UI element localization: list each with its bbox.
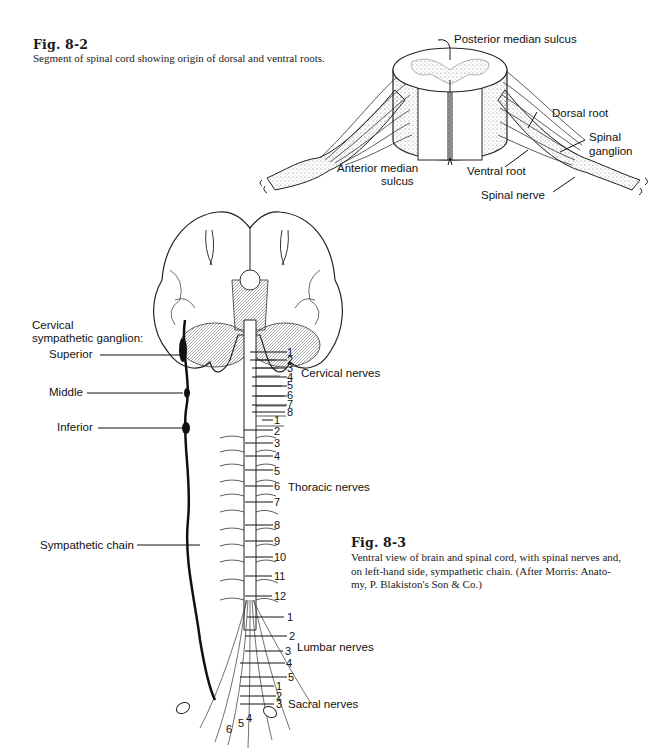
fig-8-3-caption: Ventral view of brain and spinal cord, w… [351, 551, 661, 592]
lumbar-number-2: 2 [289, 631, 295, 641]
cervical-number-8: 8 [287, 407, 293, 417]
thoracic-number-10: 10 [274, 552, 286, 562]
label-lumbar-nerves: Lumbar nerves [297, 641, 374, 653]
label-thoracic-nerves: Thoracic nerves [288, 481, 370, 493]
thoracic-number-9: 9 [274, 536, 280, 546]
label-sympathetic-chain: Sympathetic chain [40, 539, 134, 551]
sacral-number-5: 5 [238, 718, 244, 728]
thoracic-number-2: 2 [274, 426, 280, 436]
thoracic-number-12: 12 [274, 591, 286, 601]
thoracic-number-11: 11 [274, 571, 285, 581]
sacral-number-3: 3 [276, 699, 282, 709]
label-sacral-nerves: Sacral nerves [288, 698, 358, 710]
label-cervical-nerves: Cervical nerves [301, 367, 380, 379]
lumbar-number-4: 4 [286, 658, 292, 668]
fig-8-3-caption-line-3: my, P. Blakiston's Son & Co.) [351, 578, 661, 592]
thoracic-number-6: 6 [274, 481, 280, 491]
thoracic-number-7: 7 [274, 497, 280, 507]
fig-8-3-title: Fig. 8-3 [351, 535, 406, 550]
fig-8-3-caption-line-2: on left-hand side, sympathetic chain. (A… [351, 565, 661, 579]
sacral-number-4: 4 [246, 713, 252, 723]
label-middle: Middle [49, 386, 83, 398]
fig-8-3-caption-line-1: Ventral view of brain and spinal cord, w… [351, 551, 661, 565]
lumbar-number-5: 5 [288, 672, 294, 682]
label-cervical-sympathetic-ganglion-line1: Cervical [32, 319, 74, 331]
thoracic-number-1: 1 [274, 415, 280, 425]
thoracic-number-3: 3 [274, 438, 280, 448]
label-inferior: Inferior [57, 421, 93, 433]
thoracic-number-5: 5 [274, 466, 280, 476]
lumbar-number-1: 1 [287, 612, 293, 622]
sacral-number-6: 6 [226, 724, 232, 734]
thoracic-number-4: 4 [274, 451, 280, 461]
label-superior: Superior [49, 348, 92, 360]
lumbar-number-3: 3 [285, 646, 291, 656]
thoracic-number-8: 8 [274, 520, 280, 530]
label-cervical-sympathetic-ganglion-line2: sympathetic ganglion: [32, 332, 143, 344]
